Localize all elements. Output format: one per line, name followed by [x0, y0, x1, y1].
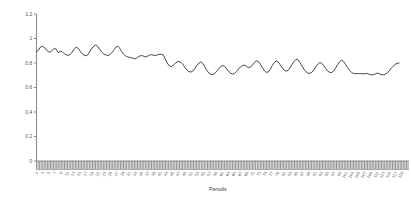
chart-container: 00.20.40.60.811.213579111315171921232527… [0, 0, 411, 204]
y-tick-label: 0 [30, 158, 33, 164]
x-tick-label: 119 [397, 170, 405, 179]
y-tick-label: 1 [30, 35, 33, 41]
x-tick-label: 5 [46, 170, 52, 175]
line-chart: 00.20.40.60.811.213579111315171921232527… [0, 0, 411, 204]
x-tick-label: 7 [52, 170, 58, 175]
x-tick-label: 1 [33, 170, 39, 175]
y-tick-label: 0.2 [25, 133, 32, 139]
y-tick-label: 0.4 [25, 109, 32, 115]
x-tick-label: 3 [40, 170, 46, 175]
y-tick-label: 0.8 [25, 60, 32, 66]
y-tick-label: 0.6 [25, 84, 32, 90]
x-axis-title: Periods [209, 186, 227, 192]
data-series-line [37, 45, 400, 75]
y-tick-label: 1.2 [25, 11, 32, 17]
